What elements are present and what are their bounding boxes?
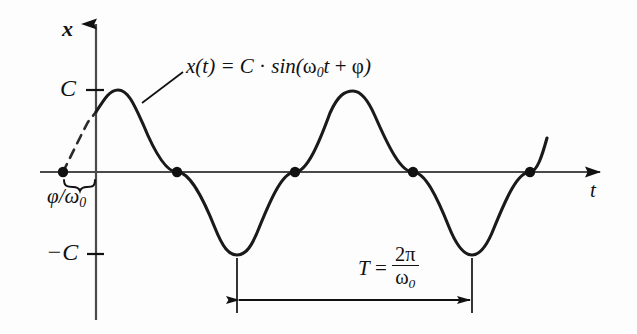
period-label: T = 2π ω0	[358, 244, 419, 291]
period-equals-sign: =	[375, 256, 387, 280]
equation-omega-subscript: 0	[317, 65, 324, 80]
dashed-phase-extension	[63, 112, 96, 172]
period-symbol: T	[358, 256, 370, 280]
zero-crossing-marker	[525, 167, 535, 177]
zero-crossing-marker	[290, 167, 300, 177]
period-denominator: ω0	[392, 266, 418, 291]
tick-label-positive-amplitude: C	[60, 76, 76, 100]
oscillation-figure: x t C −C φ/ω0 x(t) = C · sin(ω0t + φ) T …	[0, 0, 637, 334]
zero-crossing-marker	[408, 167, 418, 177]
equation-close-paren: )	[364, 54, 371, 78]
equation-lhs: x(t) =	[186, 54, 235, 78]
equation-plus-sign: +	[335, 54, 347, 78]
plot-canvas	[0, 0, 637, 334]
phase-offset-omega: ω	[64, 184, 79, 208]
phase-offset-numerator: φ	[47, 184, 59, 208]
equation-multiplication-dot: ·	[259, 54, 266, 78]
equation-time-variable: t	[324, 54, 330, 78]
equation-amplitude: C	[240, 54, 254, 78]
phase-offset-label: φ/ω0	[47, 186, 86, 210]
period-fraction: 2π ω0	[392, 244, 418, 291]
zero-crossing-marker	[58, 167, 68, 177]
horizontal-axis-label: t	[590, 180, 596, 201]
zero-crossing-marker	[172, 167, 182, 177]
equation-label: x(t) = C · sin(ω0t + φ)	[186, 56, 371, 80]
equation-leader-line	[142, 72, 183, 103]
equation-sine-open: sin(	[271, 54, 303, 78]
period-denominator-omega: ω	[395, 266, 408, 288]
tick-label-negative-amplitude: −C	[46, 240, 78, 264]
period-numerator: 2π	[392, 244, 418, 266]
equation-omega: ω	[303, 54, 317, 78]
period-denominator-subscript: 0	[409, 277, 416, 292]
vertical-axis-label: x	[62, 18, 73, 40]
phase-offset-omega-subscript: 0	[79, 195, 86, 210]
equation-phase: φ	[352, 54, 364, 78]
